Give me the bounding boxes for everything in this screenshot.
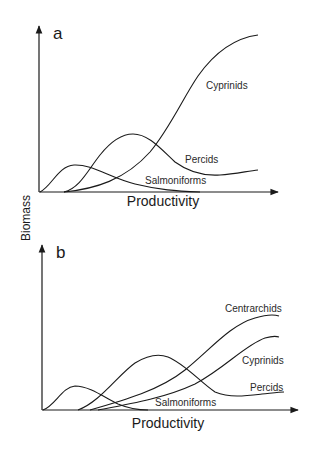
x-axis-label-b: Productivity bbox=[132, 415, 204, 431]
panel-label-a: a bbox=[53, 24, 63, 43]
figure-canvas: a Cyprinids Percids Salmoniforms Product… bbox=[0, 0, 315, 452]
label-percids-a: Percids bbox=[185, 154, 218, 165]
x-axis-label-a: Productivity bbox=[127, 193, 199, 209]
y-axis-label: Biomass bbox=[19, 195, 33, 241]
panel-a: a Cyprinids Percids Salmoniforms Product… bbox=[39, 24, 278, 209]
label-salmoniforms-b: Salmoniforms bbox=[155, 397, 216, 408]
curve-salmoniforms-b bbox=[43, 386, 148, 410]
label-cyprinids-a: Cyprinids bbox=[206, 80, 248, 91]
label-centrarchids-b: Centrarchids bbox=[225, 303, 282, 314]
label-salmoniforms-a: Salmoniforms bbox=[145, 175, 206, 186]
label-cyprinids-b: Cyprinids bbox=[242, 355, 284, 366]
panel-label-b: b bbox=[56, 243, 65, 262]
panel-b: b Centrarchids Cyprinids Percids Salmoni… bbox=[42, 243, 298, 431]
label-percids-b: Percids bbox=[250, 382, 283, 393]
